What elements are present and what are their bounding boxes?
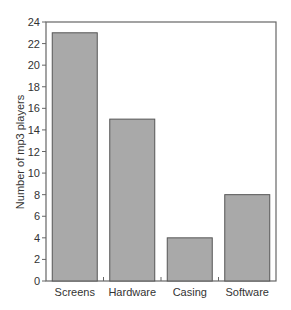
y-axis-ticks: 024681012141618202224	[28, 16, 46, 287]
y-tick-label: 8	[34, 189, 40, 201]
y-tick-label: 6	[34, 210, 40, 222]
y-tick-label: 18	[28, 81, 40, 93]
bar-casing	[167, 238, 212, 281]
y-tick-label: 10	[28, 167, 40, 179]
y-tick-label: 14	[28, 124, 40, 136]
bar-hardware	[110, 119, 155, 281]
y-tick-label: 16	[28, 102, 40, 114]
bars	[52, 33, 270, 281]
bar-chart: 024681012141618202224 ScreensHardwareCas…	[0, 0, 291, 310]
x-tick-label: Casing	[173, 286, 207, 298]
x-tick-label: Software	[226, 286, 269, 298]
y-tick-label: 20	[28, 59, 40, 71]
x-tick-label: Screens	[55, 286, 96, 298]
y-tick-label: 24	[28, 16, 40, 28]
bar-software	[225, 195, 270, 281]
y-tick-label: 0	[34, 275, 40, 287]
y-axis-title: Number of mp3 players	[14, 94, 26, 209]
bar-screens	[52, 33, 97, 281]
x-tick-label: Hardware	[108, 286, 156, 298]
y-tick-label: 2	[34, 253, 40, 265]
y-tick-label: 12	[28, 146, 40, 158]
y-tick-label: 4	[34, 232, 40, 244]
y-tick-label: 22	[28, 38, 40, 50]
